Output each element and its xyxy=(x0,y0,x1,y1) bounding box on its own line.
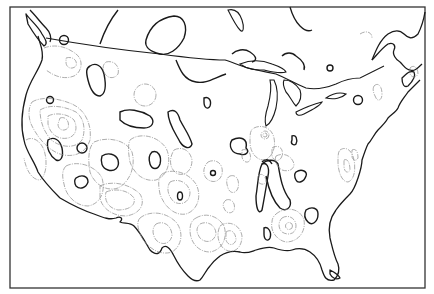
hachure-contour xyxy=(218,223,242,251)
hachure-contour xyxy=(66,57,76,68)
contour-ny xyxy=(354,96,363,105)
hachure-contour xyxy=(103,62,118,78)
vancouver-island xyxy=(26,14,46,46)
hachure-contour xyxy=(58,118,69,130)
hachure-contour xyxy=(344,160,350,172)
hachure-contour xyxy=(153,223,172,244)
contour-alabama xyxy=(264,228,271,240)
hachure-contour xyxy=(227,176,239,193)
contour-wyoming xyxy=(168,110,192,147)
hachure-contour xyxy=(242,150,251,162)
hachure-contour xyxy=(286,223,293,230)
contour-ontario-north xyxy=(282,53,305,70)
hachure-contour xyxy=(138,213,181,253)
hachure-contour xyxy=(263,133,267,137)
contour-nd xyxy=(204,97,211,108)
hachure-contour xyxy=(226,231,236,245)
contour-small-4 xyxy=(178,192,183,200)
contour-canada-north xyxy=(100,10,186,54)
bold-contours xyxy=(47,10,363,240)
nova-scotia xyxy=(402,71,415,86)
hachure-contour xyxy=(40,106,84,146)
lake-erie xyxy=(296,102,322,115)
contour-small-5 xyxy=(211,171,216,176)
hachure-contour xyxy=(279,216,296,234)
hachure-contour xyxy=(250,126,275,160)
coastline xyxy=(22,7,425,281)
hachure-contour xyxy=(171,148,192,174)
lake-ontario xyxy=(326,93,346,99)
hachure-contour xyxy=(272,209,305,242)
contour-michigan-up xyxy=(232,50,256,62)
hachure-contour xyxy=(360,32,372,38)
hachure-contour xyxy=(106,190,135,210)
contour-georgia xyxy=(305,208,318,224)
west-coast xyxy=(22,36,60,198)
hachure-contour xyxy=(223,200,234,213)
contour-iowa xyxy=(230,138,247,154)
hachure-contour xyxy=(44,46,81,78)
contour-nevada xyxy=(47,138,62,160)
atlantic-coast xyxy=(336,80,420,210)
map-frame xyxy=(10,7,425,288)
contour-ohio xyxy=(291,136,296,145)
hachure-contour xyxy=(24,138,46,180)
contour-map xyxy=(0,0,434,294)
hachure-contour xyxy=(352,149,358,160)
contour-missouri xyxy=(256,164,269,212)
contour-ontario xyxy=(327,65,333,71)
southern-border xyxy=(60,198,220,281)
great-lakes xyxy=(228,10,346,126)
contour-kentucky xyxy=(295,170,307,182)
lake-michigan xyxy=(265,80,277,126)
hachure-contour xyxy=(190,215,225,252)
hachure-contour xyxy=(134,84,156,106)
contour-utah xyxy=(101,154,118,171)
bc-coast xyxy=(30,10,51,42)
contour-az xyxy=(75,176,89,188)
contour-canada-2 xyxy=(176,60,226,82)
lake-winnipeg xyxy=(228,10,243,31)
contour-montana xyxy=(120,110,153,128)
contour-co xyxy=(149,152,160,169)
contour-idaho xyxy=(87,64,106,96)
hachure-contour xyxy=(373,84,382,100)
st-lawrence-north xyxy=(372,12,425,60)
hachure-contour xyxy=(261,131,269,139)
contour-small-2 xyxy=(47,97,54,104)
hachure-contour xyxy=(338,148,355,182)
hachure-contour xyxy=(89,139,133,189)
us-canada-border xyxy=(46,38,384,89)
gulf-coast xyxy=(220,210,339,280)
hudson-bay xyxy=(290,7,312,31)
hachure-contour xyxy=(63,164,104,206)
hachure-contour xyxy=(197,223,216,242)
